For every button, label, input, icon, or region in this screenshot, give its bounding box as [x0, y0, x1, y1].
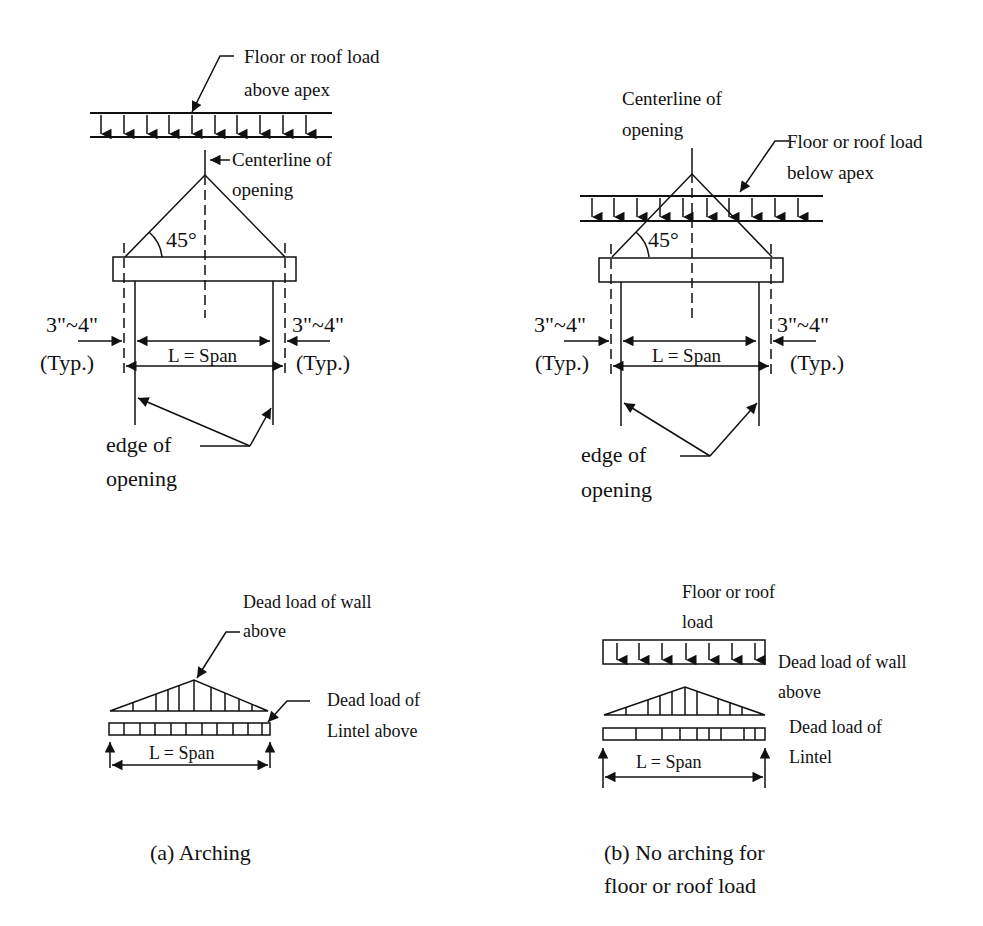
centerline-label-line2: opening [232, 179, 294, 200]
lintel-beam [599, 258, 783, 282]
floor-load-label-line1: Floor or roof [682, 582, 775, 602]
bearing-left-line1: 3"~4" [534, 312, 586, 337]
span-label: L = Span [652, 345, 722, 366]
bearing-right-line2: (Typ.) [296, 350, 350, 375]
load-label-line2: above apex [244, 79, 330, 100]
lintel-load-label-line1: Dead load of [327, 690, 420, 710]
caption-b-line1: (b) No arching for [604, 840, 765, 865]
uniform-load-above-apex [90, 113, 332, 137]
lintel-load-label-line2: Lintel above [327, 721, 417, 741]
load-label-line1: Floor or roof load [244, 46, 380, 67]
bearing-right-line1: 3"~4" [777, 312, 829, 337]
edge-label-line1: edge of [581, 442, 647, 467]
angle-label: 45° [648, 227, 679, 252]
bearing-right-line1: 3"~4" [292, 312, 344, 337]
triangular-wall-load [110, 680, 268, 711]
panel-b-load-diagram: Floor or roof load Dead load of wall abo… [603, 582, 906, 788]
triangular-wall-load [604, 687, 765, 715]
bearing-left-line2: (Typ.) [40, 350, 94, 375]
bearing-right-line2: (Typ.) [790, 350, 844, 375]
centerline-label-line1: Centerline of [622, 88, 722, 109]
uniform-load-below-apex [580, 196, 823, 221]
lintel-self-weight-load [109, 723, 270, 735]
edge-label-line1: edge of [106, 432, 172, 457]
span-label: L = Span [149, 743, 214, 763]
span-label: L = Span [168, 345, 238, 366]
edge-label-line2: opening [581, 477, 652, 502]
caption-b-line2: floor or roof load [604, 873, 756, 898]
panel-a-load-diagram: Dead load of wall above [109, 592, 420, 768]
lintel-arching-diagram: Floor or roof load above apex Centerline… [0, 0, 983, 926]
wall-load-label-line2: above [778, 682, 821, 702]
wall-load-label-line1: Dead load of wall [778, 652, 906, 672]
centerline-label-line1: Centerline of [232, 149, 332, 170]
edge-leader-right-arrow [710, 403, 757, 456]
load-arrows [101, 115, 306, 134]
centerline-label-line2: opening [622, 119, 684, 140]
load-label-line2: below apex [787, 162, 875, 183]
load-label-line1: Floor or roof load [787, 131, 923, 152]
angle-label: 45° [166, 227, 197, 252]
lintel-load-label-line2: Lintel [789, 747, 832, 767]
wall-load-label-line2: above [243, 621, 286, 641]
wall-load-label-line1: Dead load of wall [243, 592, 371, 612]
angle-arc [149, 232, 162, 257]
lintel-load-label-line1: Dead load of [789, 717, 882, 737]
panel-b-top: Centerline of opening Floor or roof load… [534, 88, 923, 502]
load-leader-arrow [740, 141, 789, 192]
caption-a: (a) Arching [150, 840, 251, 865]
edge-leader-right-arrow [250, 408, 271, 446]
panel-a-top: Floor or roof load above apex Centerline… [40, 46, 380, 491]
uniform-floor-load [603, 640, 765, 664]
floor-load-label-line2: load [682, 612, 713, 632]
load-leader-arrow [192, 56, 234, 112]
bearing-left-line2: (Typ.) [535, 350, 589, 375]
lintel-load-leader-arrow [268, 701, 310, 722]
wall-load-leader-arrow [197, 632, 240, 678]
edge-label-line2: opening [106, 466, 177, 491]
arching-triangle [612, 174, 772, 257]
bearing-left-line1: 3"~4" [46, 312, 98, 337]
lintel-self-weight-load [603, 728, 765, 740]
load-arrows [592, 198, 798, 217]
span-label: L = Span [636, 752, 701, 772]
